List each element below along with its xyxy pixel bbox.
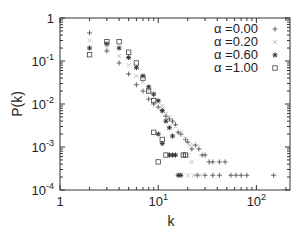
plus-marker: [156, 105, 161, 110]
plus-marker: [223, 159, 228, 164]
y-axis-tick-labels: 110-110-210-310-4: [32, 11, 54, 198]
square-marker: [126, 50, 130, 54]
square-marker: [273, 66, 277, 70]
cross-marker: [127, 63, 131, 67]
plus-marker: [210, 159, 215, 164]
plus-marker: [151, 102, 156, 107]
cross-marker: [117, 54, 121, 58]
star-marker: [117, 46, 122, 51]
cross-marker: [273, 40, 277, 44]
square-marker: [160, 137, 164, 141]
x-tick-label: 101: [148, 192, 167, 209]
star-marker: [156, 98, 161, 103]
plus-marker: [203, 153, 208, 158]
plus-marker: [163, 114, 168, 119]
x-axis-tick-labels: 1101102: [56, 192, 266, 209]
plus-marker: [217, 173, 222, 178]
legend: α =0.00α =0.20α =0.60α =1.00: [214, 21, 278, 75]
y-tick-label: 10-4: [32, 181, 54, 198]
plus-marker: [228, 173, 233, 178]
cross-marker: [147, 89, 151, 93]
square-marker: [87, 53, 91, 57]
star-marker: [87, 46, 92, 51]
loglog-scatter-chart: 1101102 110-110-210-310-4 k P(k) α =0.00…: [0, 0, 307, 233]
x-axis-label: k: [168, 213, 176, 229]
plus-marker: [233, 173, 238, 178]
star-marker: [126, 55, 131, 60]
star-marker: [273, 53, 278, 58]
y-tick-label: 1: [47, 11, 54, 26]
plus-marker: [239, 173, 244, 178]
y-tick-label: 10-1: [32, 52, 54, 69]
cross-marker: [186, 173, 190, 177]
cross-marker: [88, 38, 92, 42]
plus-marker: [87, 30, 92, 35]
y-tick-label: 10-2: [32, 95, 54, 112]
square-marker: [117, 40, 121, 44]
square-marker: [134, 61, 138, 65]
cross-marker: [190, 160, 194, 164]
plus-marker: [217, 159, 222, 164]
star-marker: [173, 153, 178, 158]
star-marker: [167, 125, 172, 130]
legend-label: α =1.00: [214, 60, 258, 75]
plus-marker: [210, 173, 215, 178]
plus-marker: [146, 97, 151, 102]
star-marker: [170, 134, 175, 139]
x-tick-label: 102: [247, 192, 266, 209]
square-marker: [151, 130, 155, 134]
x-tick-label: 1: [56, 194, 63, 209]
legend-item: α =1.00: [214, 60, 277, 75]
plus-marker: [134, 82, 139, 87]
plus-marker: [271, 173, 276, 178]
star-marker: [163, 119, 168, 124]
cross-marker: [134, 74, 138, 78]
star-marker: [156, 132, 161, 137]
y-axis-label: P(k): [9, 91, 25, 117]
star-marker: [160, 108, 165, 113]
plus-marker: [126, 71, 131, 76]
series-3: [87, 40, 187, 165]
star-marker: [151, 92, 156, 97]
cross-marker: [160, 104, 164, 108]
plus-marker: [117, 60, 122, 65]
plus-marker: [244, 173, 249, 178]
plus-marker: [203, 173, 208, 178]
star-marker: [134, 65, 139, 70]
plus-marker: [273, 27, 278, 32]
star-marker: [178, 173, 183, 178]
series-2: [87, 41, 183, 177]
plus-marker: [140, 89, 145, 94]
square-marker: [156, 160, 160, 164]
y-tick-label: 10-3: [32, 138, 54, 155]
cross-marker: [188, 143, 192, 147]
plus-marker: [196, 146, 201, 151]
cross-marker: [141, 80, 145, 84]
